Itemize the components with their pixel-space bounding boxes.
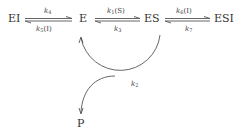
species-e: E xyxy=(79,13,87,25)
species-es: ES xyxy=(144,13,160,25)
rate-k2: k2 xyxy=(131,80,138,89)
species-esi: ESI xyxy=(214,13,234,25)
rate-k4: k4 xyxy=(44,7,51,16)
reaction-arrows xyxy=(0,0,246,135)
rate-k5: k5(I) xyxy=(36,25,52,34)
species-p: P xyxy=(77,118,84,130)
product-branch xyxy=(81,76,115,113)
rate-k7: k7 xyxy=(185,25,192,34)
rate-k3: k3 xyxy=(114,25,121,34)
rate-k1: k1(S) xyxy=(107,7,125,16)
rate-k6: k6(I) xyxy=(176,7,192,16)
catalytic-arc xyxy=(81,35,160,70)
species-ei: EI xyxy=(8,13,20,25)
